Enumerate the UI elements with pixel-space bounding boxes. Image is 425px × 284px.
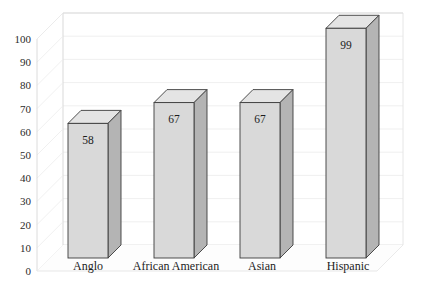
bar-chart: 0 10 20 30 40 50 60 70 80 90 100 58 67 bbox=[0, 0, 425, 284]
bar-side-face bbox=[108, 110, 121, 258]
y-tick-label: 100 bbox=[15, 33, 32, 45]
y-tick-label: 90 bbox=[20, 56, 32, 68]
x-category-label: Hispanic bbox=[327, 259, 370, 273]
y-tick-label: 30 bbox=[20, 195, 32, 207]
y-tick-label: 20 bbox=[20, 219, 32, 231]
x-category-label: Asian bbox=[248, 259, 276, 273]
bar-value-label: 58 bbox=[82, 134, 94, 146]
x-category-label: Anglo bbox=[73, 259, 103, 273]
bar-front-face bbox=[240, 103, 280, 258]
y-tick-label: 10 bbox=[20, 242, 32, 254]
chart-canvas: 0 10 20 30 40 50 60 70 80 90 100 58 67 bbox=[0, 0, 425, 284]
bar-side-face bbox=[280, 90, 293, 258]
bar-side-face bbox=[366, 15, 379, 258]
y-tick-label: 60 bbox=[20, 126, 32, 138]
y-tick-label: 0 bbox=[26, 265, 32, 277]
bar-value-label: 99 bbox=[340, 39, 352, 51]
bar-front-face bbox=[326, 28, 366, 258]
x-category-label: African American bbox=[133, 259, 219, 273]
bar-front-face bbox=[154, 103, 194, 258]
bar-side-face bbox=[194, 90, 207, 258]
y-axis-ticks: 0 10 20 30 40 50 60 70 80 90 100 bbox=[15, 33, 32, 277]
bar-hispanic[interactable]: 99 bbox=[326, 15, 379, 258]
y-tick-label: 80 bbox=[20, 79, 32, 91]
y-tick-label: 40 bbox=[20, 172, 32, 184]
y-tick-label: 50 bbox=[20, 149, 32, 161]
y-tick-label: 70 bbox=[20, 103, 32, 115]
bar-anglo[interactable]: 58 bbox=[68, 110, 121, 258]
left-depth-wall bbox=[37, 13, 63, 271]
bar-asian[interactable]: 67 bbox=[240, 90, 293, 258]
bar-value-label: 67 bbox=[168, 113, 180, 125]
bar-value-label: 67 bbox=[254, 113, 266, 125]
bar-african-american[interactable]: 67 bbox=[154, 90, 207, 258]
